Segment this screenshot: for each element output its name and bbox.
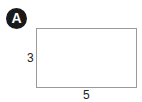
rectangle-shape xyxy=(36,28,137,88)
figure-label-badge: A xyxy=(6,8,27,29)
width-label: 5 xyxy=(83,88,90,102)
height-label: 3 xyxy=(27,51,34,65)
